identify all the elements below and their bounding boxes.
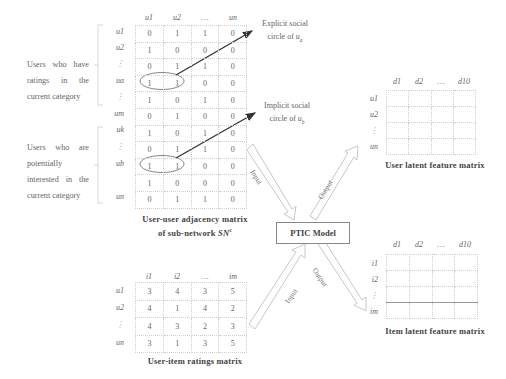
explicit-social-circle-label: Explicit social circle of ua bbox=[250, 17, 320, 47]
adj-cell: 0 bbox=[136, 142, 164, 159]
adj-cell: 0 bbox=[191, 108, 219, 125]
ratings-cell: 1 bbox=[163, 335, 191, 353]
output-arrow-bottom bbox=[318, 240, 366, 311]
ratings-matrix-caption: User-item ratings matrix bbox=[120, 356, 270, 366]
implicit-social-circle-label: Implicit social circle of ub bbox=[252, 99, 322, 129]
adj-cell: 0 bbox=[163, 175, 191, 192]
user-latent-caption: User latent feature matrix bbox=[370, 160, 500, 170]
ratings-row-header: u1 bbox=[100, 286, 124, 295]
user-latent-col-header: d2 bbox=[408, 77, 430, 86]
ratings-row: 4323 bbox=[136, 318, 247, 336]
adjacency-matrix: 0110 1000 0110 1100 1010 0100 1010 0110 … bbox=[135, 25, 247, 209]
adj-row-header: u1 bbox=[100, 27, 124, 36]
ratings-cell: 3 bbox=[191, 283, 219, 301]
adj-cell: 0 bbox=[219, 175, 247, 192]
adj-cell: 1 bbox=[163, 75, 191, 92]
potentially-interested-users-label: Users who are potentially interested in … bbox=[27, 140, 89, 204]
ratings-row-header: u2 bbox=[100, 303, 124, 312]
adj-cell: 0 bbox=[191, 158, 219, 175]
adj-row-header: ⋮ bbox=[100, 142, 124, 151]
adj-cell: 1 bbox=[136, 42, 164, 59]
item-latent-row-header: ⋮ bbox=[364, 291, 378, 300]
ratings-cell: 3 bbox=[163, 318, 191, 336]
adj-cell: 1 bbox=[163, 108, 191, 125]
adj-cell: 1 bbox=[191, 142, 219, 159]
ratings-cell: 1 bbox=[163, 300, 191, 318]
item-latent-col-header: … bbox=[430, 240, 452, 249]
adj-cell: 1 bbox=[136, 92, 164, 109]
item-latent-matrix bbox=[386, 254, 478, 319]
adj-cell: 0 bbox=[191, 75, 219, 92]
adj-cell: 0 bbox=[136, 26, 164, 43]
adj-row-header: um bbox=[100, 109, 124, 118]
adj-cell: 0 bbox=[219, 108, 247, 125]
ratings-cell: 5 bbox=[219, 335, 247, 353]
user-latent-row-header: ⋮ bbox=[364, 126, 378, 135]
ratings-matrix: 3435 4142 4323 3135 bbox=[135, 282, 247, 353]
adj-row-header: ⋮ bbox=[100, 59, 124, 68]
ratings-row: 3435 bbox=[136, 283, 247, 301]
adj-cell: 1 bbox=[136, 125, 164, 142]
adj-cell: 0 bbox=[136, 108, 164, 125]
ratings-cell: 4 bbox=[191, 300, 219, 318]
ratings-col-header: … bbox=[191, 272, 219, 281]
adj-cell: 1 bbox=[191, 191, 219, 208]
adj-cell: 0 bbox=[136, 59, 164, 76]
ratings-cell: 2 bbox=[219, 300, 247, 318]
adj-cell: 1 bbox=[191, 26, 219, 43]
adj-row: 0110 bbox=[136, 191, 247, 208]
adj-col-header: u2 bbox=[163, 13, 191, 22]
ptic-model-box: PTIC Model bbox=[276, 222, 350, 244]
user-latent-col-header: … bbox=[430, 77, 452, 86]
adj-cell: 0 bbox=[136, 191, 164, 208]
adj-row: 1100 bbox=[136, 75, 247, 92]
adj-cell: 1 bbox=[163, 158, 191, 175]
ratings-cell: 4 bbox=[136, 300, 164, 318]
adj-row-header: ⋮ bbox=[100, 92, 124, 101]
item-latent-row-header: im bbox=[364, 307, 378, 316]
item-latent-row-header: i1 bbox=[364, 259, 378, 268]
adj-cell: 0 bbox=[163, 42, 191, 59]
user-latent-col-header: d1 bbox=[386, 77, 408, 86]
adj-cell: 0 bbox=[219, 142, 247, 159]
adj-row: 1000 bbox=[136, 175, 247, 192]
ratings-row: 4142 bbox=[136, 300, 247, 318]
ratings-row: 3135 bbox=[136, 335, 247, 353]
adj-cell: 1 bbox=[163, 26, 191, 43]
user-latent-row-header: u2 bbox=[364, 110, 378, 119]
adj-col-header: un bbox=[219, 13, 247, 22]
adj-row: 1010 bbox=[136, 92, 247, 109]
adj-cell: 1 bbox=[191, 125, 219, 142]
adj-row: 1010 bbox=[136, 125, 247, 142]
ratings-col-header: im bbox=[219, 272, 247, 281]
user-latent-col-header: d10 bbox=[452, 77, 476, 86]
adj-row-header: un bbox=[100, 192, 124, 201]
ratings-cell: 3 bbox=[136, 283, 164, 301]
adj-cell: 0 bbox=[219, 158, 247, 175]
item-latent-caption: Item latent feature matrix bbox=[370, 326, 500, 336]
adj-cell: 0 bbox=[219, 191, 247, 208]
ratings-cell: 4 bbox=[163, 283, 191, 301]
adj-cell: 0 bbox=[219, 42, 247, 59]
item-latent-col-header: d10 bbox=[452, 240, 478, 249]
ratings-cell: 3 bbox=[191, 335, 219, 353]
ratings-col-header: i2 bbox=[163, 272, 191, 281]
user-latent-row-header: un bbox=[364, 142, 378, 151]
adj-cell: 0 bbox=[219, 92, 247, 109]
adj-cell: 0 bbox=[191, 175, 219, 192]
user-latent-matrix bbox=[386, 90, 476, 155]
ratings-col-header: i1 bbox=[135, 272, 163, 281]
adj-cell: 1 bbox=[163, 59, 191, 76]
adj-cell: 1 bbox=[191, 59, 219, 76]
adj-cell: 0 bbox=[163, 92, 191, 109]
adj-cell: 0 bbox=[163, 125, 191, 142]
adj-row: 0110 bbox=[136, 26, 247, 43]
adj-row: 0110 bbox=[136, 59, 247, 76]
adj-cell: 0 bbox=[219, 125, 247, 142]
adj-cell: 1 bbox=[136, 75, 164, 92]
adj-col-header: … bbox=[191, 13, 219, 22]
ratings-cell: 2 bbox=[191, 318, 219, 336]
adj-cell: 1 bbox=[136, 158, 164, 175]
item-latent-col-header: d1 bbox=[386, 240, 408, 249]
users-with-ratings-label: Users who have ratings in the current ca… bbox=[27, 57, 89, 105]
